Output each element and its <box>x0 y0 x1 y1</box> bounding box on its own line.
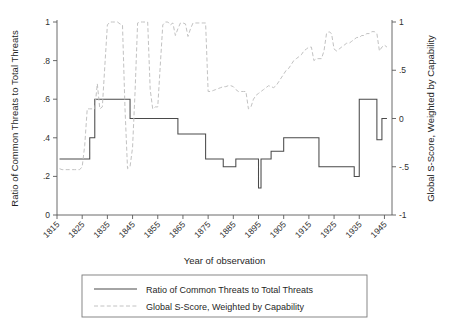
y-axis-right: -1-.50.51 <box>392 17 409 220</box>
x-tick-label: 1825 <box>66 219 87 240</box>
y-tick-label-right: 0 <box>399 114 404 124</box>
y-tick-label-left: .8 <box>43 56 50 66</box>
x-axis: 1815182518351845185518651875188518951905… <box>41 215 389 240</box>
y-tick-label-left: .4 <box>43 133 50 143</box>
series-layer <box>60 22 387 188</box>
plot-frame <box>57 20 392 215</box>
y-tick-label-left: 1 <box>45 17 50 27</box>
x-tick-label: 1935 <box>343 219 364 240</box>
y-tick-label-right: -1 <box>399 210 407 220</box>
x-tick-label: 1845 <box>117 219 138 240</box>
x-axis-title: Year of observation <box>184 255 266 266</box>
y-axis-left-title: Ratio of Common Threats to Total Threats <box>9 30 20 207</box>
x-tick-label: 1865 <box>167 219 188 240</box>
legend-item-label: Ratio of Common Threats to Total Threats <box>146 285 314 295</box>
x-tick-label: 1925 <box>318 219 339 240</box>
x-tick-label: 1835 <box>91 219 112 240</box>
x-tick-label: 1905 <box>268 219 289 240</box>
x-tick-label: 1915 <box>293 219 314 240</box>
x-tick-label: 1895 <box>242 219 263 240</box>
y-tick-label-right: 1 <box>399 17 404 27</box>
x-tick-label: 1815 <box>41 219 62 240</box>
x-tick-label: 1875 <box>192 219 213 240</box>
y-axis-right-title: Global S-Score, Weighted by Capability <box>425 35 436 202</box>
series-line-s-score <box>60 22 387 170</box>
x-tick-label: 1885 <box>217 219 238 240</box>
series-line-common-threats <box>60 99 387 188</box>
chart-canvas: 0.2.4.6.81 -1-.50.51 1815182518351845185… <box>0 0 449 323</box>
y-tick-label-left: .6 <box>43 94 50 104</box>
x-tick-label: 1855 <box>142 219 163 240</box>
y-tick-label-left: .2 <box>43 171 50 181</box>
y-tick-label-right: -.5 <box>399 162 409 172</box>
chart-figure: 0.2.4.6.81 -1-.50.51 1815182518351845185… <box>0 0 449 323</box>
y-tick-label-right: .5 <box>399 65 406 75</box>
y-axis-left: 0.2.4.6.81 <box>43 17 57 220</box>
x-tick-label: 1945 <box>368 219 389 240</box>
legend-layer: Ratio of Common Threats to Total Threats… <box>82 275 367 317</box>
legend-item-label: Global S-Score, Weighted by Capability <box>146 302 304 312</box>
y-tick-label-left: 0 <box>45 210 50 220</box>
